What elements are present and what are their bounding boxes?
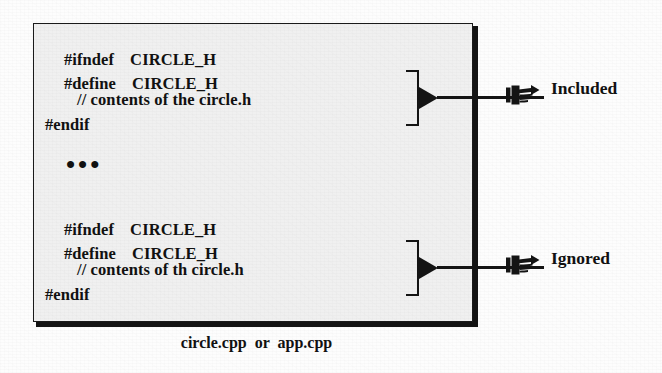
annotation-label-ignored: Ignored: [551, 250, 610, 268]
code-comment-1: // contents of the circle.h: [77, 92, 251, 109]
code-line-endif-1: #endif: [45, 117, 90, 134]
code-block-brace: [406, 240, 419, 296]
code-block-brace: [406, 70, 419, 126]
annotation-included: Included: [406, 70, 662, 126]
include-guard-figure: #ifndefCIRCLE_H #defineCIRCLE_H // conte…: [0, 0, 662, 373]
annotation-ignored: Ignored: [406, 240, 662, 296]
code-comment-2: // contents of th circle.h: [77, 262, 244, 279]
code-line-endif-2: #endif: [45, 287, 90, 304]
figure-caption: circle.cpp or app.cpp: [33, 335, 480, 351]
box-shadow-bottom-edge: [36, 322, 478, 327]
arrow-head-icon: [419, 257, 438, 279]
pointing-hand-icon: [505, 82, 545, 108]
code-ellipsis-separator: •••: [66, 152, 102, 178]
pointing-hand-icon: [505, 252, 545, 278]
arrow-head-icon: [419, 87, 438, 109]
annotation-label-included: Included: [551, 80, 617, 98]
